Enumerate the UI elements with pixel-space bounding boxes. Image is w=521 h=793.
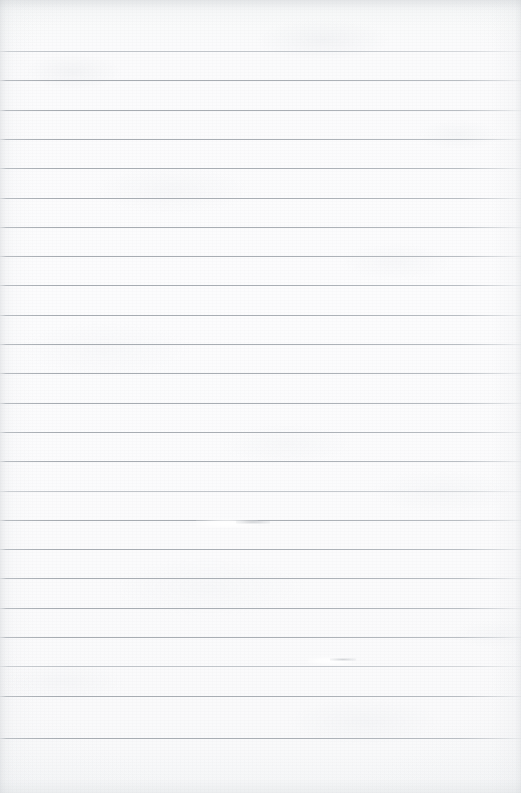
paper-background [0,0,521,793]
scanned-page [0,0,521,793]
